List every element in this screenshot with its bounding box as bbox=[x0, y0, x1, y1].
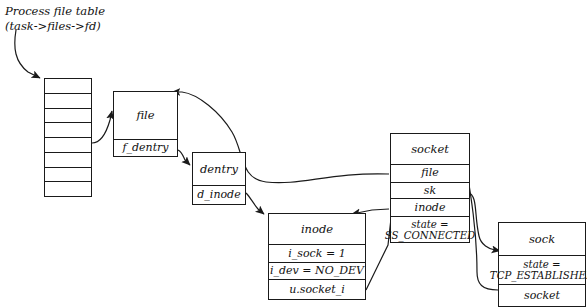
struct-socket-field-file[interactable]: file bbox=[391, 165, 469, 183]
struct-sock-field-socket[interactable]: socket bbox=[499, 285, 585, 306]
struct-sock-header: sock bbox=[499, 223, 585, 256]
struct-dentry-field-d_inode[interactable]: d_inode bbox=[193, 186, 245, 204]
file-table-cell[interactable] bbox=[45, 153, 91, 168]
struct-socket[interactable]: socket file sk inode state = SS_CONNECTE… bbox=[390, 133, 470, 243]
struct-socket-header: socket bbox=[391, 134, 469, 165]
struct-dentry-header: dentry bbox=[193, 153, 245, 186]
file-table-cell[interactable] bbox=[45, 79, 91, 94]
struct-socket-field-state[interactable]: state = SS_CONNECTED bbox=[391, 217, 469, 242]
struct-sock[interactable]: sock state = TCP_ESTABLISHED socket bbox=[498, 222, 586, 307]
diagram-caption-line1: Process file table bbox=[5, 4, 105, 19]
diagram-canvas: Process file table (task->files->fd) bbox=[0, 0, 587, 307]
struct-inode-field-i_dev[interactable]: i_dev = NO_DEV bbox=[269, 263, 365, 281]
struct-file-header: file bbox=[114, 92, 177, 140]
arrow-dinode-to-inode bbox=[246, 193, 264, 214]
struct-file-field-f_dentry[interactable]: f_dentry bbox=[114, 140, 177, 156]
struct-socket-field-inode[interactable]: inode bbox=[391, 199, 469, 217]
file-table-cell[interactable] bbox=[45, 168, 91, 183]
process-file-table[interactable] bbox=[44, 78, 92, 197]
file-table-cell[interactable] bbox=[45, 123, 91, 138]
struct-dentry[interactable]: dentry d_inode bbox=[192, 152, 246, 205]
file-table-cell[interactable] bbox=[45, 94, 91, 109]
struct-inode-header: inode bbox=[269, 214, 365, 245]
file-table-cell[interactable] bbox=[45, 182, 91, 196]
struct-inode-field-i_sock[interactable]: i_sock = 1 bbox=[269, 245, 365, 263]
diagram-caption-line2: (task->files->fd) bbox=[5, 19, 101, 34]
struct-file[interactable]: file f_dentry bbox=[113, 91, 178, 157]
struct-sock-field-state[interactable]: state = TCP_ESTABLISHED bbox=[499, 256, 585, 285]
arrow-fdentry-to-dentry bbox=[178, 150, 190, 165]
arrow-filetable-to-file bbox=[92, 111, 112, 143]
arrow-caption-to-filetable bbox=[15, 30, 40, 78]
file-table-cell[interactable] bbox=[45, 138, 91, 153]
file-table-cell[interactable] bbox=[45, 109, 91, 124]
struct-socket-field-sk[interactable]: sk bbox=[391, 183, 469, 200]
struct-inode[interactable]: inode i_sock = 1 i_dev = NO_DEV u.socket… bbox=[268, 213, 366, 300]
struct-inode-field-u_socket_i[interactable]: u.socket_i bbox=[269, 280, 365, 299]
